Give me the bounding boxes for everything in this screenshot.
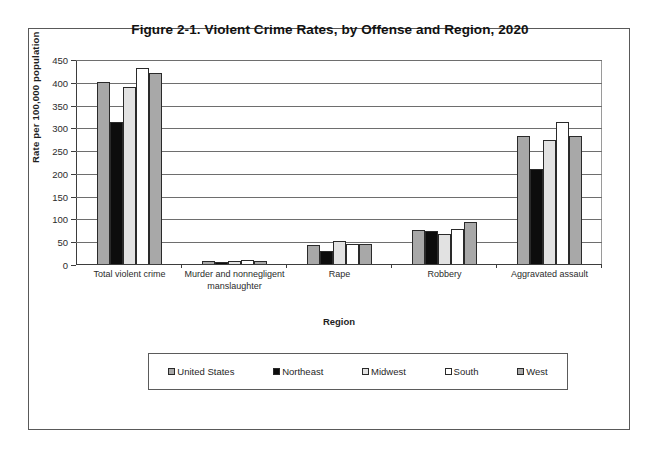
legend: United StatesNortheastMidwestSouthWest (148, 353, 568, 390)
legend-swatch-icon (273, 368, 280, 375)
bar[interactable] (464, 222, 477, 264)
x-axis-tick-mark (391, 264, 392, 268)
y-axis-tick-mark (71, 197, 76, 198)
y-axis-tick-label: 0 (63, 260, 68, 271)
y-axis-tick-mark (71, 83, 76, 84)
bar[interactable] (530, 169, 543, 264)
y-axis-title: Rate per 100,000 population (30, 31, 41, 163)
y-axis-tick-label: 200 (52, 168, 68, 179)
bar[interactable] (254, 261, 267, 264)
x-axis-category-label: Murder and nonnegligent manslaughter (182, 269, 287, 292)
bar[interactable] (97, 82, 110, 264)
y-axis-tick-mark (71, 265, 76, 266)
bar[interactable] (202, 261, 215, 264)
bar-group (392, 60, 497, 264)
x-axis-tick-mark (601, 264, 602, 268)
bar[interactable] (215, 262, 228, 264)
x-axis-category-label: Aggravated assault (497, 269, 602, 292)
x-axis-category-label: Total violent crime (77, 269, 182, 292)
legend-entry[interactable]: South (445, 366, 479, 377)
x-axis-category-label: Rape (287, 269, 392, 292)
bar[interactable] (241, 260, 254, 264)
bar-group (77, 60, 182, 264)
chart-title: Figure 2-1. Violent Crime Rates, by Offe… (0, 22, 660, 37)
y-axis-tick-mark (71, 174, 76, 175)
bar[interactable] (149, 73, 162, 264)
bar-groups (77, 60, 602, 264)
bar[interactable] (228, 261, 241, 264)
y-axis-tick-mark (71, 219, 76, 220)
legend-swatch-icon (362, 368, 369, 375)
y-axis-tick-label: 350 (52, 100, 68, 111)
bar[interactable] (569, 136, 582, 264)
legend-entry[interactable]: Midwest (362, 366, 406, 377)
legend-label: Northeast (282, 366, 323, 377)
legend-swatch-icon (168, 368, 175, 375)
x-axis-category-label: Robbery (392, 269, 497, 292)
y-axis-tick-label: 300 (52, 123, 68, 134)
bar[interactable] (543, 140, 556, 264)
y-axis-tick-mark (71, 242, 76, 243)
x-axis-category-labels: Total violent crimeMurder and nonneglige… (77, 269, 602, 292)
y-axis-tick-label: 150 (52, 191, 68, 202)
bar[interactable] (320, 251, 333, 264)
y-axis-tick-mark (71, 151, 76, 152)
y-axis-tick-label: 100 (52, 214, 68, 225)
x-axis-tick-mark (286, 264, 287, 268)
y-axis-tick-label: 400 (52, 77, 68, 88)
x-axis-tick-mark (496, 264, 497, 268)
bar[interactable] (438, 234, 451, 264)
bar[interactable] (451, 229, 464, 264)
x-axis-line (76, 264, 602, 265)
legend-label: United States (177, 366, 234, 377)
bar[interactable] (359, 244, 372, 265)
bar[interactable] (136, 68, 149, 264)
bar-group (497, 60, 602, 264)
y-axis-tick-mark (71, 128, 76, 129)
legend-label: Midwest (371, 366, 406, 377)
legend-label: South (454, 366, 479, 377)
legend-label: West (526, 366, 547, 377)
bar[interactable] (412, 230, 425, 264)
y-axis-tick-mark (71, 60, 76, 61)
bar[interactable] (425, 231, 438, 264)
bar[interactable] (346, 244, 359, 264)
y-axis-tick-mark (71, 106, 76, 107)
y-axis-tick-label: 450 (52, 55, 68, 66)
legend-entry[interactable]: West (517, 366, 547, 377)
y-axis-tick-label: 50 (57, 237, 68, 248)
legend-swatch-icon (517, 368, 524, 375)
bar[interactable] (556, 122, 569, 264)
bar[interactable] (333, 241, 346, 264)
legend-entry[interactable]: United States (168, 366, 234, 377)
plot-area: 050100150200250300350400450 (76, 60, 602, 265)
y-axis-tick-label: 250 (52, 146, 68, 157)
x-axis-tick-mark (181, 264, 182, 268)
bar-group (182, 60, 287, 264)
legend-swatch-icon (445, 368, 452, 375)
bar[interactable] (517, 136, 530, 264)
bar[interactable] (110, 122, 123, 264)
x-axis-title: Region (76, 316, 602, 327)
bar-group (287, 60, 392, 264)
bar[interactable] (307, 245, 320, 264)
bar[interactable] (123, 87, 136, 264)
legend-entry[interactable]: Northeast (273, 366, 323, 377)
